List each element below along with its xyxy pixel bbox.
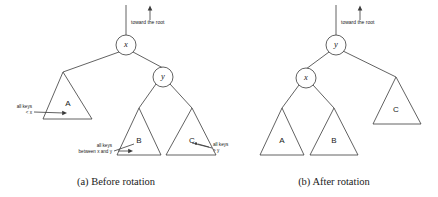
subtree-triangle-A-after	[260, 108, 304, 155]
subtree-label-B-after: B	[331, 136, 336, 145]
subtree-triangle-B-after	[310, 108, 358, 155]
subtree-triangle-A-before	[43, 72, 92, 119]
edge-x-to-A	[63, 52, 119, 72]
node-y-label-before: y	[160, 71, 165, 81]
annotation-keys-lt-x-line1: all keys	[17, 104, 33, 109]
edge-x-to-y	[133, 52, 163, 68]
annotation-keys-gt-y-line2: > y	[213, 148, 220, 153]
toward-the-root-label-after: toward the root	[341, 19, 375, 25]
edge-y-to-C	[170, 84, 192, 108]
rotation-diagram: toward the root A B C x	[0, 0, 438, 197]
edge-y-to-B	[139, 84, 156, 108]
panel-before-rotation: toward the root A B C x	[17, 5, 229, 188]
node-x-after: x	[296, 68, 316, 88]
panel-after-rotation: toward the root A B C y	[260, 5, 421, 188]
node-x-before: x	[116, 35, 136, 55]
caption-before-rotation: (a) Before rotation	[77, 176, 156, 188]
up-arrow-icon-after	[358, 6, 363, 21]
annotation-keys-between-line1: all keys	[97, 143, 113, 148]
toward-the-root-label-before: toward the root	[131, 19, 165, 25]
edge-y-to-C-after	[343, 51, 396, 77]
node-y-before: y	[153, 67, 173, 87]
annotation-keys-gt-y-line1: all keys	[213, 142, 229, 147]
subtree-triangle-C-after	[373, 77, 421, 124]
subtree-label-B-before: B	[136, 136, 141, 145]
caption-after-rotation: (b) After rotation	[298, 176, 370, 188]
figure-container: toward the root A B C x	[0, 0, 438, 197]
edge-x-to-A-after	[282, 85, 299, 108]
node-x-label-before: x	[123, 39, 128, 49]
edge-x-to-B-after	[313, 85, 334, 108]
subtree-label-A-after: A	[279, 136, 285, 145]
annotation-keys-between-line2: between x and y	[79, 149, 113, 154]
annotation-keys-lt-x-line2: < x	[26, 110, 33, 115]
annotation-dot-keys-gt-y	[195, 142, 197, 144]
subtree-triangle-C-before	[166, 108, 216, 155]
edge-y-to-x	[306, 52, 329, 69]
subtree-label-A-before: A	[65, 99, 71, 108]
subtree-label-C-after: C	[393, 105, 399, 114]
node-x-label-after: x	[303, 72, 308, 82]
node-y-after: y	[326, 35, 346, 55]
node-y-label-after: y	[333, 39, 338, 49]
up-arrow-icon-before	[148, 6, 153, 21]
